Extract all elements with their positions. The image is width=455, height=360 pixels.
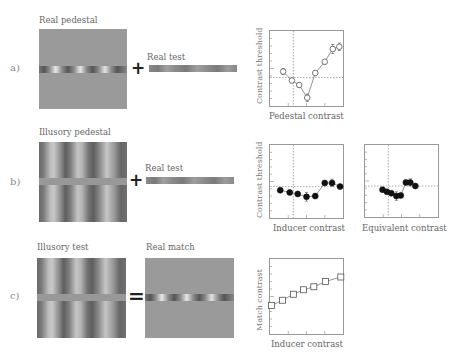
equals-operator-c: = — [128, 284, 145, 308]
data-point-marker — [311, 284, 317, 290]
plus-operator-b: + — [129, 170, 143, 190]
real-test-label-b: Real test — [145, 163, 183, 173]
data-point-marker — [304, 95, 310, 101]
data-point-marker — [304, 194, 310, 200]
data-point-marker — [301, 287, 307, 293]
c-plot — [270, 259, 343, 334]
data-point-marker — [412, 183, 418, 189]
gray-test-strip-c — [37, 294, 126, 301]
b-equivalent-plot — [365, 145, 438, 217]
data-point-marker — [322, 279, 328, 285]
illusory-test-label: Illusory test — [37, 242, 89, 252]
a-plot — [270, 31, 343, 106]
real-match-stimulus — [145, 258, 234, 338]
data-point-marker — [268, 303, 274, 309]
data-point-marker — [312, 70, 318, 76]
chart-b-inducer-xlabel: Inducer contrast — [273, 223, 345, 233]
real-test-strip-a — [149, 65, 237, 72]
real-test-strip-b — [146, 177, 234, 184]
chart-a — [269, 30, 344, 107]
data-point-marker — [337, 184, 343, 190]
data-point-marker — [289, 78, 295, 84]
real-grating-strip — [39, 66, 127, 73]
data-point-marker — [287, 189, 293, 195]
data-point-marker — [330, 46, 336, 52]
illusory-test-stimulus — [37, 258, 126, 338]
data-point-marker — [295, 191, 301, 197]
chart-c — [269, 258, 344, 335]
data-point-marker — [280, 69, 286, 75]
real-match-label: Real match — [146, 242, 195, 252]
chart-a-xlabel: Pedestal contrast — [269, 111, 344, 121]
gray-test-strip — [39, 178, 127, 185]
illusory-pedestal-label: Illusory pedestal — [39, 127, 111, 137]
real-pedestal-label: Real pedestal — [39, 15, 97, 25]
real-test-label-a: Real test — [147, 52, 185, 62]
illusory-pedestal-stimulus — [39, 142, 127, 222]
row-label-a: a) — [10, 62, 20, 73]
real-match-strip — [145, 294, 234, 301]
chart-b-inducer — [269, 144, 344, 219]
data-point-marker — [322, 180, 328, 186]
row-label-b: b) — [10, 176, 20, 187]
row-label-c: c) — [10, 290, 20, 301]
data-point-marker — [290, 291, 296, 297]
data-point-marker — [277, 187, 283, 193]
chart-b-ylabel: Contrast threshold — [255, 142, 264, 218]
data-point-marker — [398, 192, 404, 198]
data-point-marker — [337, 44, 343, 50]
chart-a-ylabel: Contrast threshold — [255, 28, 264, 104]
data-point-marker — [279, 297, 285, 303]
chart-c-xlabel: Inducer contrast — [271, 339, 343, 349]
chart-b-equivalent — [364, 144, 439, 218]
data-point-marker — [407, 179, 413, 185]
data-point-marker — [329, 180, 335, 186]
data-point-marker — [338, 274, 344, 280]
data-point-marker — [312, 193, 318, 199]
chart-c-ylabel: Match contrast — [255, 269, 264, 331]
chart-b-equivalent-xlabel: Equivalent contrast — [362, 223, 447, 233]
data-point-marker — [322, 59, 328, 65]
b-inducer-plot — [270, 145, 343, 218]
data-point-marker — [296, 82, 302, 88]
plus-operator-a: + — [131, 58, 145, 78]
real-pedestal-stimulus — [39, 29, 127, 109]
